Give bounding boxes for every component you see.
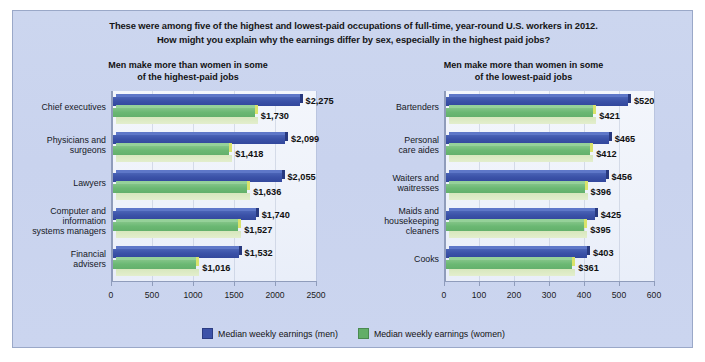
x-axis-tick-label: 2000 [265, 290, 284, 300]
x-axis-line [111, 281, 316, 282]
category-label: Computer andinformationsystems managers [32, 206, 106, 237]
category-label-line: Personal [398, 135, 439, 145]
x-axis-tick [152, 281, 153, 286]
legend-swatch-men-icon [202, 328, 213, 339]
bar-under-face [449, 193, 588, 200]
bar-end-cap [628, 94, 631, 103]
bar-face [113, 260, 196, 269]
category-label-line: information [32, 216, 106, 226]
category-label: Maids andhousekeepingcleaners [384, 206, 439, 237]
category-label-line: Chief executives [41, 102, 106, 112]
bar-top-face [449, 105, 596, 108]
bar-end-cap [585, 181, 588, 190]
caption-line-1: These were among five of the highest and… [13, 19, 694, 33]
bar-face [446, 260, 572, 269]
bar-top-face [449, 219, 587, 222]
category-label-line: Bartenders [396, 102, 439, 112]
category-label-line: advisers [71, 259, 106, 269]
bar-top-face [449, 181, 588, 184]
infographic-figure: These were among five of the highest and… [12, 10, 693, 348]
bar-end-cap [584, 219, 587, 228]
category-label-line: Financial [71, 249, 106, 259]
x-axis-tick-label: 500 [145, 290, 159, 300]
bar-face [446, 222, 584, 231]
bar-end-cap [595, 208, 598, 217]
category-label-line: Lawyers [73, 178, 106, 188]
value-label-men: $2,275 [306, 96, 334, 106]
value-label-women: $1,418 [235, 149, 263, 159]
bar-end-cap [572, 257, 575, 266]
chart-title-lowest-paid: Men make more than women in some of the … [363, 59, 684, 83]
bar-end-cap [239, 246, 242, 255]
category-label-line: systems managers [32, 226, 106, 236]
chart-title-line-2: of the highest-paid jobs [23, 71, 353, 83]
x-axis-tick-label: 100 [472, 290, 486, 300]
bar-face [113, 146, 229, 155]
value-label-men: $520 [634, 96, 654, 106]
x-axis-tick [275, 281, 276, 286]
x-axis-tick [479, 281, 480, 286]
value-label-women: $1,636 [253, 187, 281, 197]
bar-under-face [116, 117, 258, 124]
x-axis-tick [654, 281, 655, 286]
value-label-men: $1,532 [245, 248, 273, 258]
chart-panel-highest-paid: Men make more than women in some of the … [23, 59, 353, 317]
x-axis-tick [584, 281, 585, 286]
bar-under-face [116, 155, 232, 162]
x-axis-tick [444, 281, 445, 286]
bar-top-face [449, 170, 609, 173]
gridline [316, 91, 317, 281]
figure-caption: These were among five of the highest and… [13, 19, 694, 46]
bar-end-cap [285, 132, 288, 141]
bar-face [446, 184, 585, 193]
category-label: Waiters andwaitresses [392, 173, 439, 193]
x-axis-tick [549, 281, 550, 286]
category-label-line: Waiters and [392, 173, 439, 183]
value-label-men: $425 [601, 210, 621, 220]
bar-women [113, 222, 238, 231]
chart-title-line-1: Men make more than women in some [363, 59, 684, 71]
bar-end-cap [247, 181, 250, 190]
bar-women [113, 146, 229, 155]
bar-under-face [449, 155, 593, 162]
x-axis-tick-label: 1500 [224, 290, 243, 300]
bar-top-face [116, 257, 199, 260]
value-label-women: $1,730 [261, 111, 289, 121]
category-label-line: surgeons [47, 145, 106, 155]
chart-title-line-2: of the lowest-paid jobs [363, 71, 684, 83]
x-axis-tick [193, 281, 194, 286]
x-axis-tick-label: 300 [542, 290, 556, 300]
value-label-women: $395 [590, 225, 610, 235]
bar-end-cap [256, 208, 259, 217]
category-label: Financialadvisers [71, 249, 106, 269]
bar-top-face [116, 219, 241, 222]
bar-top-face [116, 208, 259, 211]
bar-women [446, 222, 584, 231]
value-label-men: $465 [615, 134, 635, 144]
bar-top-face [116, 94, 303, 97]
bar-women [446, 108, 593, 117]
category-label-line: Maids and [384, 206, 439, 216]
bar-end-cap [606, 170, 609, 179]
legend-item-women: Median weekly earnings (women) [358, 328, 505, 339]
chart-legend: Median weekly earnings (men) Median week… [13, 328, 694, 339]
bar-end-cap [300, 94, 303, 103]
plot-area-highest-paid: 05001000150020002500Chief executives$2,2… [111, 91, 316, 281]
bar-under-face [449, 117, 596, 124]
x-axis-tick-label: 0 [442, 290, 447, 300]
bar-top-face [116, 132, 288, 135]
chart-panel-lowest-paid: Men make more than women in some of the … [363, 59, 684, 317]
bar-under-face [449, 231, 587, 238]
value-label-women: $1,016 [202, 263, 230, 273]
category-label: Personalcare aides [398, 135, 439, 155]
value-label-men: $456 [612, 172, 632, 182]
category-label: Cooks [414, 254, 439, 264]
value-label-men: $2,055 [288, 172, 316, 182]
bar-women [446, 184, 585, 193]
x-axis-tick-label: 600 [647, 290, 661, 300]
plot-area-lowest-paid: 0100200300400500600Bartenders$520$421Per… [444, 91, 654, 281]
category-label: Chief executives [41, 102, 106, 112]
category-label: Lawyers [73, 178, 106, 188]
category-label-line: Cooks [414, 254, 439, 264]
value-label-men: $403 [593, 248, 613, 258]
